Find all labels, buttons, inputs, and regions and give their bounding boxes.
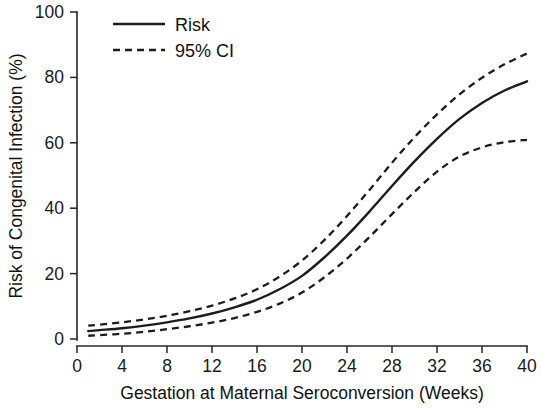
x-tick-label: 12 — [202, 356, 221, 376]
y-axis: 020406080100 — [35, 2, 77, 349]
x-tick-label: 16 — [247, 356, 266, 376]
y-axis-ticks — [70, 12, 77, 339]
y-tick-label: 20 — [45, 264, 65, 284]
legend: Risk 95% CI — [113, 15, 234, 61]
x-tick-label: 0 — [72, 356, 82, 376]
x-tick-label: 40 — [517, 356, 537, 376]
x-tick-label: 8 — [162, 356, 172, 376]
x-tick-label: 36 — [472, 356, 491, 376]
ci-lower-curve — [88, 140, 527, 336]
x-axis: 0481216202428323640 — [72, 346, 537, 376]
x-tick-label: 24 — [337, 356, 357, 376]
y-tick-label: 60 — [45, 133, 65, 153]
y-tick-label: 100 — [35, 2, 64, 22]
x-axis-title: Gestation at Maternal Seroconversion (We… — [120, 383, 483, 403]
x-tick-label: 4 — [117, 356, 127, 376]
chart-figure: 020406080100 0481216202428323640 Risk 95… — [0, 0, 541, 408]
y-axis-tick-labels: 020406080100 — [35, 2, 64, 349]
y-tick-label: 80 — [45, 67, 65, 87]
y-axis-title: Risk of Congenital Infection (%) — [6, 53, 26, 298]
plot-series — [88, 54, 527, 336]
x-tick-label: 20 — [292, 356, 312, 376]
y-tick-label: 40 — [45, 198, 65, 218]
ci-upper-curve — [88, 54, 527, 326]
x-axis-tick-labels: 0481216202428323640 — [72, 356, 537, 376]
risk-curve — [88, 81, 527, 331]
risk-of-congenital-infection-line-chart: 020406080100 0481216202428323640 Risk 95… — [0, 0, 541, 408]
x-axis-ticks — [77, 346, 527, 353]
y-tick-label: 0 — [54, 329, 64, 349]
legend-label-ci: 95% CI — [175, 41, 234, 61]
legend-label-risk: Risk — [175, 15, 211, 35]
x-tick-label: 32 — [427, 356, 446, 376]
x-tick-label: 28 — [382, 356, 401, 376]
